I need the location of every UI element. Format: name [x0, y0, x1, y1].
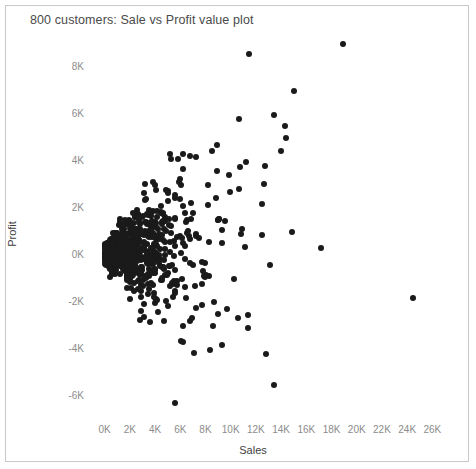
- data-point: [205, 202, 211, 208]
- x-tick-label: 8K: [199, 424, 211, 435]
- y-tick-label: 2K: [72, 201, 84, 212]
- data-point: [172, 192, 178, 198]
- y-tick-label: 4K: [72, 154, 84, 165]
- data-point: [182, 256, 188, 262]
- data-point: [219, 240, 225, 246]
- data-point: [143, 275, 149, 281]
- data-point: [128, 285, 134, 291]
- data-point: [138, 294, 144, 300]
- data-point: [165, 190, 171, 196]
- data-point: [199, 259, 205, 265]
- x-axis-title: Sales: [239, 444, 267, 456]
- data-point: [131, 250, 137, 256]
- x-axis-title-wrap: Sales: [0, 444, 476, 456]
- y-tick-label: 8K: [72, 60, 84, 71]
- data-point: [187, 153, 193, 159]
- data-point-outlier: [291, 88, 297, 94]
- data-point: [259, 232, 265, 238]
- data-point: [143, 196, 149, 202]
- x-tick-label: 18K: [323, 424, 341, 435]
- data-point-outlier: [259, 201, 265, 207]
- data-point: [262, 163, 268, 169]
- x-tick-label: 22K: [373, 424, 391, 435]
- data-point: [271, 382, 277, 388]
- data-point: [145, 281, 151, 287]
- data-point: [159, 275, 165, 281]
- data-point: [235, 315, 241, 321]
- data-point: [188, 216, 194, 222]
- data-point: [182, 284, 188, 290]
- data-point: [188, 200, 194, 206]
- data-point: [134, 266, 140, 272]
- data-point: [161, 318, 167, 324]
- data-point: [154, 208, 160, 214]
- data-point: [141, 301, 147, 307]
- chart-title: 800 customers: Sale vs Profit value plot: [30, 13, 254, 27]
- data-point: [172, 216, 178, 222]
- data-point: [135, 212, 141, 218]
- data-point-outlier: [189, 315, 195, 321]
- data-point: [191, 350, 197, 356]
- data-point: [165, 303, 171, 309]
- x-tick-label: 6K: [174, 424, 186, 435]
- data-point: [180, 166, 186, 172]
- x-tick-label: 26K: [423, 424, 441, 435]
- data-point: [116, 251, 122, 257]
- data-point: [172, 243, 178, 249]
- y-axis-tick-labels: 8K6K4K2K0K-2K-4K-6K: [46, 28, 84, 418]
- data-point: [213, 195, 219, 201]
- data-point: [182, 243, 188, 249]
- data-point: [137, 221, 143, 227]
- data-point: [185, 228, 191, 234]
- data-point: [242, 244, 248, 250]
- data-point: [211, 299, 217, 305]
- data-point: [178, 338, 184, 344]
- data-point: [132, 229, 138, 235]
- data-point-outlier: [283, 135, 289, 141]
- data-point: [224, 306, 230, 312]
- data-point: [236, 186, 242, 192]
- data-point: [210, 323, 216, 329]
- data-point: [167, 249, 173, 255]
- data-point: [138, 231, 144, 237]
- data-point: [127, 296, 133, 302]
- data-point-outlier: [282, 123, 288, 129]
- data-point-outlier: [410, 295, 416, 301]
- data-point: [141, 244, 147, 250]
- data-point: [238, 231, 244, 237]
- data-point: [180, 323, 186, 329]
- data-point: [246, 51, 252, 57]
- data-point-outlier: [318, 245, 324, 251]
- x-tick-label: 14K: [272, 424, 290, 435]
- x-tick-label: 12K: [247, 424, 265, 435]
- data-point: [141, 190, 147, 196]
- data-point: [179, 276, 185, 282]
- data-point: [111, 252, 117, 258]
- data-point: [127, 222, 133, 228]
- data-point: [187, 260, 193, 266]
- data-point: [174, 278, 180, 284]
- x-tick-label: 4K: [149, 424, 161, 435]
- data-point: [236, 116, 242, 122]
- data-point: [175, 156, 181, 162]
- data-point: [193, 305, 199, 311]
- data-point: [214, 142, 220, 148]
- data-point: [112, 234, 118, 240]
- data-point-outlier: [226, 172, 232, 178]
- data-point: [183, 219, 189, 225]
- x-tick-label: 10K: [222, 424, 240, 435]
- data-point: [153, 187, 159, 193]
- data-point: [214, 168, 220, 174]
- data-point: [122, 241, 128, 247]
- x-tick-label: 16K: [297, 424, 315, 435]
- data-point: [126, 270, 132, 276]
- data-point-outlier: [172, 400, 178, 406]
- x-tick-label: 0K: [98, 424, 110, 435]
- data-point: [148, 213, 154, 219]
- data-point: [147, 233, 153, 239]
- data-point: [152, 266, 158, 272]
- data-point: [199, 281, 205, 287]
- data-point-outlier: [219, 342, 225, 348]
- y-tick-label: 6K: [72, 107, 84, 118]
- data-point: [206, 239, 212, 245]
